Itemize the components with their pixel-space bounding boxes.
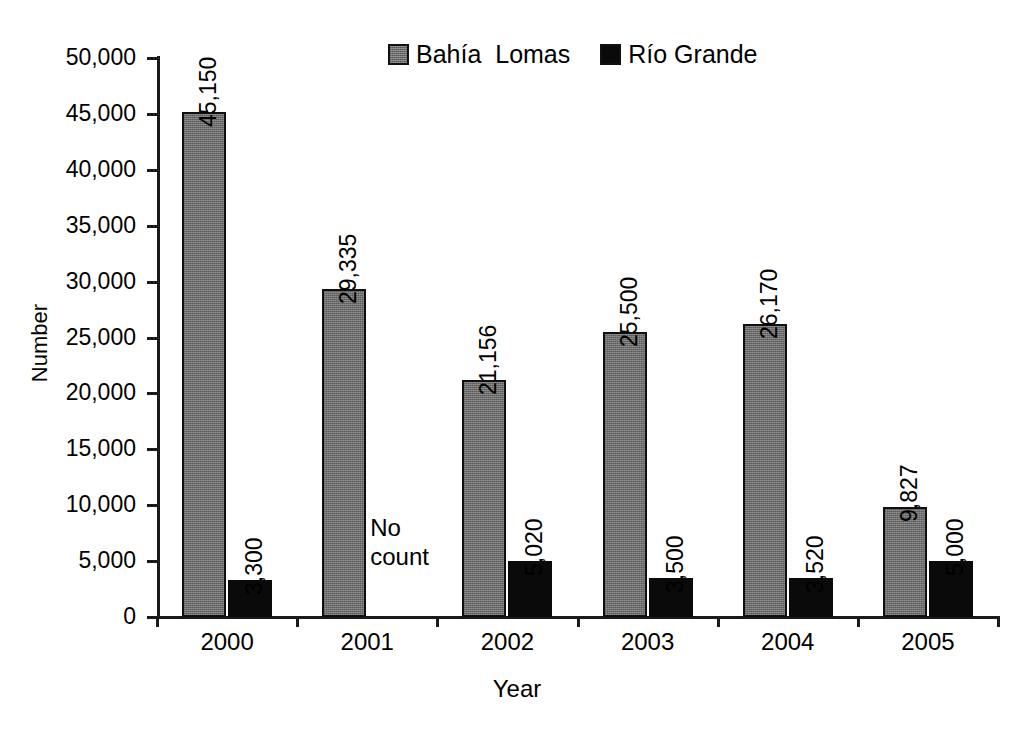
y-tick-label-0: 0 <box>32 605 136 628</box>
legend-swatch-bahia-lomas <box>388 44 409 65</box>
bar-2005-bahia-lomas[interactable] <box>883 507 927 617</box>
bar-value-label-2001-bahia-lomas: 29,335 <box>337 234 360 304</box>
legend-item-bahia-lomas[interactable]: Bahía Lomas <box>388 42 570 67</box>
x-axis-label-2001: 2001 <box>297 630 437 654</box>
y-tick-30000 <box>147 281 157 284</box>
y-tick-label-50000: 50,000 <box>32 46 136 69</box>
y-axis-line <box>157 56 160 619</box>
legend-swatch-rio-grande <box>600 44 621 65</box>
y-tick-15000 <box>147 448 157 451</box>
x-tick-3 <box>577 616 580 627</box>
legend-label-rio-grande: Río Grande <box>628 42 757 67</box>
x-tick-6 <box>997 616 1000 627</box>
y-tick-label-20000: 20,000 <box>32 381 136 404</box>
no-count-line-2: count <box>370 542 429 571</box>
x-tick-0 <box>156 616 159 627</box>
bar-value-label-2004-bahia-lomas: 26,170 <box>758 269 781 339</box>
bar-value-label-2002-bahia-lomas: 21,156 <box>477 325 500 395</box>
x-axis-title: Year <box>447 675 587 703</box>
no-count-line-1: No <box>370 513 429 542</box>
legend-label-bahia-lomas: Bahía Lomas <box>416 42 570 67</box>
bar-value-label-2005-rio-grande: 5,000 <box>944 519 967 577</box>
x-axis-label-2000: 2000 <box>157 630 297 654</box>
x-tick-5 <box>857 616 860 627</box>
bar-chart: Bahía Lomas Río Grande Number Year 05,00… <box>0 0 1031 729</box>
y-tick-25000 <box>147 337 157 340</box>
y-tick-label-10000: 10,000 <box>32 493 136 516</box>
bar-value-label-2005-bahia-lomas: 9,827 <box>898 465 921 523</box>
bar-2001-bahia-lomas[interactable] <box>322 289 366 617</box>
y-tick-label-25000: 25,000 <box>32 326 136 349</box>
bar-2004-bahia-lomas[interactable] <box>743 324 787 617</box>
y-tick-label-40000: 40,000 <box>32 158 136 181</box>
y-tick-50000 <box>147 57 157 60</box>
y-tick-35000 <box>147 225 157 228</box>
bar-value-label-2003-rio-grande: 3,500 <box>664 535 687 593</box>
no-count-annotation: No count <box>370 513 429 572</box>
bar-value-label-2004-rio-grande: 3,520 <box>804 535 827 593</box>
x-tick-2 <box>436 616 439 627</box>
y-tick-label-15000: 15,000 <box>32 437 136 460</box>
bar-value-label-2000-bahia-lomas: 45,150 <box>197 57 220 127</box>
x-axis-label-2002: 2002 <box>437 630 577 654</box>
chart-legend: Bahía Lomas Río Grande <box>388 42 758 67</box>
y-tick-10000 <box>147 504 157 507</box>
bar-2000-bahia-lomas[interactable] <box>182 112 226 617</box>
y-tick-label-45000: 45,000 <box>32 102 136 125</box>
y-tick-label-30000: 30,000 <box>32 270 136 293</box>
bar-2002-bahia-lomas[interactable] <box>462 380 506 617</box>
bar-value-label-2003-bahia-lomas: 25,500 <box>618 277 641 347</box>
x-axis-label-2004: 2004 <box>718 630 858 654</box>
x-tick-4 <box>717 616 720 627</box>
legend-item-rio-grande[interactable]: Río Grande <box>600 42 757 67</box>
bar-value-label-2000-rio-grande: 3,300 <box>243 538 266 596</box>
y-tick-label-5000: 5,000 <box>32 549 136 572</box>
y-tick-40000 <box>147 169 157 172</box>
x-axis-label-2005: 2005 <box>858 630 998 654</box>
y-tick-20000 <box>147 392 157 395</box>
bar-value-label-2002-rio-grande: 5,020 <box>523 518 546 576</box>
x-tick-1 <box>296 616 299 627</box>
bar-2003-bahia-lomas[interactable] <box>603 332 647 617</box>
y-tick-45000 <box>147 113 157 116</box>
y-tick-5000 <box>147 560 157 563</box>
y-tick-label-35000: 35,000 <box>32 214 136 237</box>
x-axis-label-2003: 2003 <box>578 630 718 654</box>
